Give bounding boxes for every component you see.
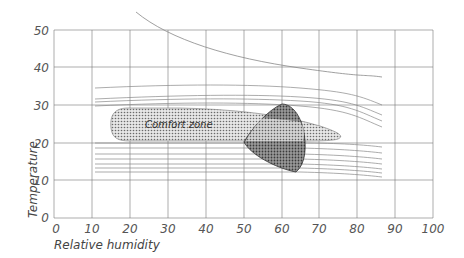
x-axis-label: Relative humidity: [54, 238, 161, 252]
lower-line-group: [95, 143, 382, 177]
svg-text:50: 50: [236, 222, 252, 236]
svg-text:40: 40: [34, 61, 50, 75]
svg-text:80: 80: [349, 222, 365, 236]
y-axis-label: Temperature: [26, 141, 40, 218]
svg-text:50: 50: [34, 24, 50, 38]
svg-text:70: 70: [311, 222, 327, 236]
svg-text:20: 20: [122, 222, 138, 236]
svg-text:40: 40: [198, 222, 214, 236]
svg-text:90: 90: [387, 222, 403, 236]
chart: Comfort zone 50 40 30 20 10 0 0 10 20 30…: [0, 0, 464, 258]
svg-text:10: 10: [84, 222, 100, 236]
x-axis-ticks: 0 10 20 30 40 50 60 70 80 90 100: [52, 222, 445, 236]
svg-text:60: 60: [274, 222, 290, 236]
svg-text:30: 30: [160, 222, 176, 236]
svg-text:30: 30: [34, 99, 50, 113]
comfort-zone-label: Comfort zone: [145, 119, 213, 130]
svg-text:100: 100: [422, 222, 445, 236]
svg-text:0: 0: [52, 222, 60, 236]
svg-text:0: 0: [41, 211, 49, 225]
